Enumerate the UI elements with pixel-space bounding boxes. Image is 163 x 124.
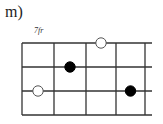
filled-dot-marker bbox=[125, 86, 135, 96]
open-circle-marker bbox=[96, 38, 106, 48]
fretboard-diagram bbox=[0, 0, 163, 124]
filled-dot-marker bbox=[65, 62, 75, 72]
open-circle-marker bbox=[33, 86, 43, 96]
